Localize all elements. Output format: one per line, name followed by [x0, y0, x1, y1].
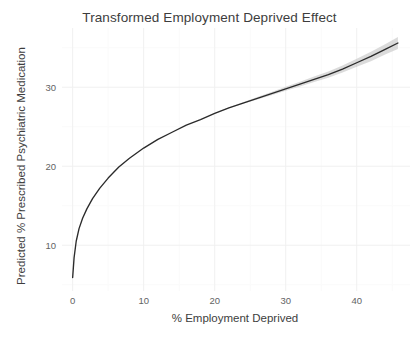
- plot-area: [62, 28, 410, 291]
- chart-title: Transformed Employment Deprived Effect: [0, 10, 419, 25]
- chart-figure: Transformed Employment Deprived Effect P…: [0, 0, 419, 339]
- y-tick-label: 10: [45, 240, 56, 251]
- x-tick-label: 10: [138, 295, 149, 306]
- x-tick-label: 40: [351, 295, 362, 306]
- trend-line: [73, 43, 398, 278]
- plot-panel: [62, 28, 410, 291]
- y-tick-label: 20: [45, 161, 56, 172]
- x-tick-label: 20: [209, 295, 220, 306]
- confidence-ribbon: [73, 37, 398, 277]
- y-axis-tick-labels: 102030: [0, 0, 60, 339]
- y-tick-label: 30: [45, 82, 56, 93]
- x-axis-title: % Employment Deprived: [70, 312, 400, 324]
- x-tick-label: 30: [280, 295, 291, 306]
- x-tick-label: 0: [70, 295, 75, 306]
